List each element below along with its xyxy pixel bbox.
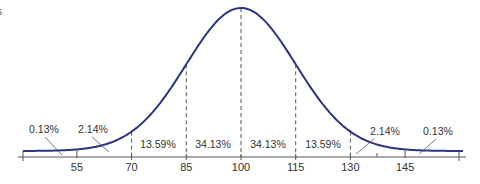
- label-leader-lines: [45, 137, 436, 155]
- leader-line: [45, 137, 62, 155]
- region-label: 0.13%: [29, 123, 59, 135]
- x-ticks: 557085100115130145: [23, 149, 459, 173]
- region-label: 0.13%: [423, 125, 453, 137]
- tick-label-70: 70: [125, 161, 137, 173]
- tick-label-115: 115: [287, 161, 305, 173]
- region-label: 2.14%: [78, 123, 108, 135]
- region-label: 34.13%: [250, 138, 286, 150]
- tick-label-130: 130: [341, 161, 359, 173]
- region-label: 34.13%: [195, 138, 231, 150]
- tick-label-55: 55: [71, 161, 83, 173]
- leader-line: [356, 139, 374, 154]
- tick-label-145: 145: [396, 161, 414, 173]
- tick-label-85: 85: [180, 161, 192, 173]
- leader-line: [419, 139, 436, 154]
- region-label: 13.59%: [305, 138, 341, 150]
- normal-distribution-chart: 557085100115130145 0.13%2.14%13.59%34.13…: [0, 0, 480, 184]
- region-label: 2.14%: [370, 125, 400, 137]
- dashed-lines: [132, 8, 351, 157]
- region-label: 13.59%: [140, 138, 176, 150]
- tick-label-100: 100: [232, 161, 250, 173]
